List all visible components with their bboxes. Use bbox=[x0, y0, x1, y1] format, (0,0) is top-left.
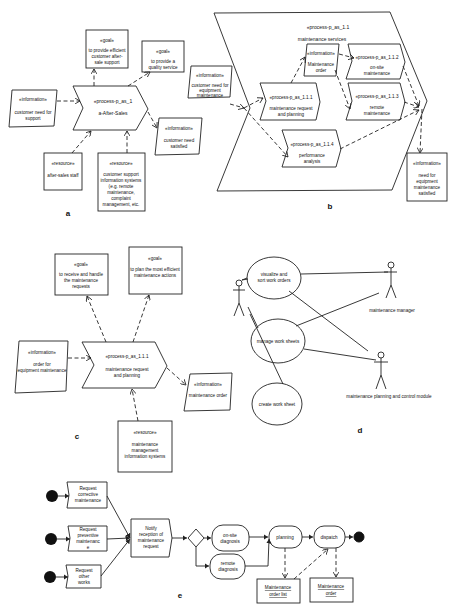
request-corrective-maintenance[interactable]: Request corrective maintenance bbox=[67, 482, 107, 508]
svg-text:complaint: complaint bbox=[111, 196, 131, 201]
svg-text:to receive and handle: to receive and handle bbox=[59, 272, 103, 277]
svg-text:performance: performance bbox=[299, 153, 325, 158]
svg-text:«information»: «information» bbox=[196, 73, 224, 78]
goal-receive-requests[interactable]: «goal» to receive and handle the mainten… bbox=[55, 254, 108, 295]
svg-text:«process-p_as_1.1: «process-p_as_1.1 bbox=[307, 24, 350, 30]
svg-text:«resource»: «resource» bbox=[110, 161, 133, 166]
svg-text:other: other bbox=[79, 574, 90, 579]
svg-text:corrective: corrective bbox=[78, 492, 98, 497]
process-performance-analysis[interactable]: «process-p_as_1.1.4 performance analysis bbox=[282, 130, 341, 167]
panel-label-b: b bbox=[328, 202, 333, 211]
svg-text:preventive: preventive bbox=[77, 533, 99, 538]
svg-text:«process-p_as_1.1.3: «process-p_as_1.1.3 bbox=[356, 94, 399, 99]
svg-text:maintenance: maintenance bbox=[364, 111, 391, 116]
info-customer-need-support[interactable]: «information» customer need for support bbox=[9, 90, 57, 127]
svg-text:satisfied: satisfied bbox=[171, 144, 188, 149]
svg-text:«goal»: «goal» bbox=[74, 262, 88, 267]
svg-text:maintenance services: maintenance services bbox=[298, 36, 347, 42]
svg-text:on-site: on-site bbox=[223, 533, 237, 538]
activity-planning[interactable]: planning bbox=[269, 526, 302, 548]
panel-label-d: d bbox=[358, 426, 363, 435]
svg-text:after-sales staff: after-sales staff bbox=[47, 173, 79, 178]
info-customer-need-satisfied[interactable]: «information» customer need satisfied bbox=[155, 118, 202, 155]
svg-text:request: request bbox=[143, 544, 159, 549]
svg-text:«goal»: «goal» bbox=[148, 256, 162, 261]
info-customer-need-equipment[interactable]: «information» customer need for equipmen… bbox=[188, 66, 232, 98]
svg-text:sale support: sale support bbox=[94, 60, 120, 65]
svg-text:Request: Request bbox=[75, 568, 93, 573]
actor-planning-control-module[interactable]: maintenance planning and control module bbox=[346, 352, 432, 399]
panel-label-e: e bbox=[178, 591, 183, 600]
svg-text:customer need for: customer need for bbox=[14, 110, 51, 115]
svg-text:on-site: on-site bbox=[370, 65, 384, 70]
svg-text:«process-p_as_1.1.4: «process-p_as_1.1.4 bbox=[291, 142, 334, 147]
svg-text:maintenance request: maintenance request bbox=[106, 367, 150, 372]
svg-text:«information»: «information» bbox=[413, 161, 441, 166]
info-order-equipment-maintenance[interactable]: «information» order for equipment mainte… bbox=[15, 341, 68, 393]
process-maintenance-request-planning[interactable]: «process-p_as_1.1.1 maintenance request … bbox=[260, 83, 320, 120]
svg-text:the maintenance: the maintenance bbox=[64, 278, 98, 283]
svg-text:«information»: «information» bbox=[194, 382, 222, 387]
process-after-sales[interactable]: «process-p_as_1 a-After-Sales bbox=[73, 86, 148, 130]
process-remote-maintenance[interactable]: «process-p_as_1.1.3 remote maintenance bbox=[346, 83, 405, 120]
svg-text:Maintenance: Maintenance bbox=[318, 584, 345, 589]
goal-quality-service[interactable]: «goal» to provide a quality service bbox=[142, 41, 184, 72]
process-on-site-maintenance[interactable]: «process-p_as_1.1.2 on-site maintenance bbox=[346, 44, 405, 79]
resource-customer-support-systems[interactable]: «resource» customer support information … bbox=[98, 153, 145, 211]
svg-text:Request: Request bbox=[79, 486, 97, 491]
svg-text:«process-p_as_1: «process-p_as_1 bbox=[94, 98, 133, 104]
svg-text:planning: planning bbox=[276, 535, 294, 540]
usecase-visualize-sort[interactable]: visualize and sort work orders bbox=[247, 257, 301, 299]
svg-text:maintenance: maintenance bbox=[364, 71, 391, 76]
svg-text:works: works bbox=[78, 580, 91, 585]
actor-left[interactable] bbox=[233, 280, 245, 316]
object-maintenance-order-list[interactable]: Maintenance order list bbox=[257, 579, 300, 603]
svg-text:customer support: customer support bbox=[103, 172, 139, 177]
usecase-create-work-sheet[interactable]: create work sheet bbox=[252, 383, 302, 425]
svg-text:Maintenance: Maintenance bbox=[308, 62, 335, 67]
svg-text:management, etc.: management, etc. bbox=[103, 202, 140, 207]
svg-text:Notify: Notify bbox=[145, 526, 157, 531]
svg-text:maintenance request: maintenance request bbox=[270, 106, 314, 111]
svg-text:remote: remote bbox=[370, 105, 385, 110]
svg-text:«process-p_as_1.1.1: «process-p_as_1.1.1 bbox=[270, 95, 313, 100]
svg-text:«information»: «information» bbox=[19, 97, 47, 102]
start-node-3 bbox=[44, 571, 56, 583]
svg-text:maintenance,: maintenance, bbox=[107, 190, 135, 195]
svg-text:«information»: «information» bbox=[307, 51, 335, 56]
process-c-request-planning[interactable]: «process-p_as_1.1.1 maintenance request … bbox=[82, 342, 167, 388]
panel-label-a: a bbox=[66, 209, 71, 218]
svg-text:diagnosis: diagnosis bbox=[220, 539, 240, 544]
svg-text:equipment maintenance: equipment maintenance bbox=[17, 368, 66, 373]
notify-reception-request[interactable]: Notify reception of maintenance request bbox=[131, 519, 172, 557]
request-preventive-maintenance[interactable]: Request preventive maintenanc e bbox=[68, 526, 107, 551]
svg-text:information systems: information systems bbox=[125, 454, 167, 459]
panel-e: Request corrective maintenance Request p… bbox=[44, 482, 364, 603]
svg-text:maintenance order: maintenance order bbox=[189, 393, 228, 398]
resource-after-sales-staff[interactable]: «resource» after-sales staff bbox=[44, 153, 82, 190]
svg-text:analysis: analysis bbox=[304, 159, 321, 164]
activity-dispatch[interactable]: dispatch bbox=[314, 526, 345, 548]
object-maintenance-order[interactable]: Maintenance order bbox=[310, 578, 353, 602]
goal-efficient-support[interactable]: «goal» to provide efficient customer aft… bbox=[86, 30, 128, 68]
svg-text:management: management bbox=[132, 448, 160, 453]
panel-label-c: c bbox=[75, 432, 80, 441]
request-other-works[interactable]: Request other works bbox=[66, 565, 101, 588]
svg-text:information systems: information systems bbox=[101, 178, 143, 183]
svg-text:reception of: reception of bbox=[139, 532, 164, 537]
svg-text:need for: need for bbox=[419, 173, 436, 178]
goal-plan-actions[interactable]: «goal» to plan the most efficient mainte… bbox=[129, 247, 182, 294]
activity-remote-diagnosis[interactable]: remote diagnosis bbox=[210, 554, 245, 579]
info-maintenance-order[interactable]: «information» Maintenance order bbox=[304, 44, 339, 76]
info-need-satisfied[interactable]: «information» need for equipment mainten… bbox=[407, 153, 447, 201]
info-maintenance-order-c[interactable]: «information» maintenance order bbox=[184, 373, 232, 411]
svg-text:customer need: customer need bbox=[164, 138, 195, 143]
svg-text:equipment: equipment bbox=[416, 179, 438, 184]
activity-on-site-diagnosis[interactable]: on-site diagnosis bbox=[212, 525, 249, 551]
svg-text:dispatch: dispatch bbox=[320, 535, 338, 540]
resource-maintenance-systems[interactable]: «resource» maintenance management inform… bbox=[118, 421, 172, 472]
actor-maintenance-manager[interactable]: maintenance manager bbox=[369, 262, 415, 313]
svg-text:Maintenance: Maintenance bbox=[265, 585, 292, 590]
svg-text:order: order bbox=[316, 68, 327, 73]
svg-text:maintenance: maintenance bbox=[414, 185, 441, 190]
